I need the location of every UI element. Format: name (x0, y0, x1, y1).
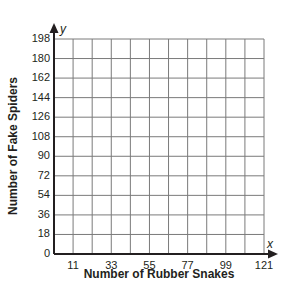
y-tick-label: 126 (20, 110, 50, 122)
y-tick-label: 72 (20, 169, 50, 181)
x-axis-title: Number of Rubber Snakes (54, 267, 264, 281)
y-tick-label: 90 (20, 149, 50, 161)
gridlines (54, 39, 264, 254)
y-tick-label: 108 (20, 130, 50, 142)
y-tick-label: 54 (20, 188, 50, 200)
y-tick-label: 180 (20, 52, 50, 64)
y-tick-label: 144 (20, 91, 50, 103)
y-tick-label: 36 (20, 208, 50, 220)
y-tick-label: 162 (20, 71, 50, 83)
y-axis-arrow-icon (50, 23, 59, 33)
y-tick-label: 198 (20, 32, 50, 44)
y-tick-label: 18 (20, 227, 50, 239)
y-tick-label: 0 (20, 247, 50, 259)
y-axis-title: Number of Fake Spiders (6, 41, 20, 251)
x-variable-label: x (267, 237, 273, 251)
y-variable-label: y (60, 22, 66, 36)
